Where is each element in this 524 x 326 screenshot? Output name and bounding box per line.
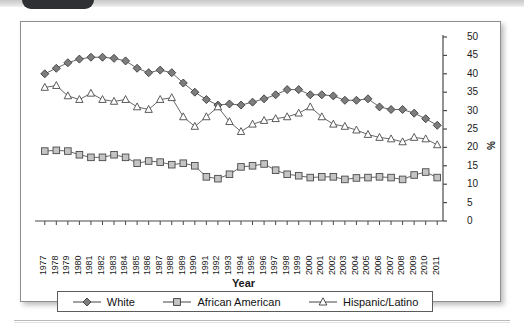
y-axis-tick-label: 15 (467, 161, 489, 171)
x-axis-tick-label: 1984 (119, 256, 129, 275)
x-axis-tick-label: 1978 (50, 256, 60, 275)
x-axis-tick-label: 2002 (327, 256, 337, 275)
x-axis-tick-label: 1998 (281, 256, 291, 275)
page-bottom-rule (14, 320, 510, 321)
x-axis-tick-label: 2006 (373, 256, 383, 275)
x-axis-tick-label: 1983 (108, 256, 118, 275)
x-axis-tick-label: 1997 (269, 256, 279, 275)
x-axis-tick-label: 2003 (338, 256, 348, 275)
x-axis-tick-label: 2009 (408, 256, 418, 275)
page-bottom-rule-shadow (14, 322, 510, 323)
legend-label: White (107, 296, 135, 308)
y-axis-tick-label: 5 (467, 198, 489, 208)
x-axis-tick-label: 2004 (350, 256, 360, 275)
x-axis-label: Year (21, 277, 466, 289)
x-axis-tick-label: 1993 (223, 256, 233, 275)
filled-diamond-icon (72, 295, 102, 309)
plot-area (33, 33, 453, 230)
x-axis-tick-label: 2001 (315, 256, 325, 275)
y-axis-tick-label: 40 (467, 69, 489, 79)
x-axis-ticks: 1977197819791980198119821983198419851986… (33, 233, 453, 275)
x-axis-tick-label: 2011 (431, 256, 441, 275)
x-axis-tick-label: 2007 (385, 256, 395, 275)
y-axis-tick-label: 0 (467, 216, 489, 226)
x-axis-tick-label: 1991 (200, 256, 210, 275)
y-axis-tick-label: 30 (467, 106, 489, 116)
x-axis-tick-label: 1994 (235, 256, 245, 275)
x-axis-tick-label: 1992 (211, 256, 221, 275)
legend-entry[interactable]: Hispanic/Latino (308, 295, 418, 309)
y-axis-tick-label: 10 (467, 179, 489, 189)
x-axis-tick-label: 1981 (84, 256, 94, 275)
y-axis-tick-label: 50 (467, 32, 489, 42)
x-axis-tick-label: 1996 (258, 256, 268, 275)
page-top-tab (22, 0, 94, 9)
x-axis-tick-label: 1977 (38, 256, 48, 275)
y-axis-tick-label: 45 (467, 50, 489, 60)
x-axis-tick-label: 1990 (188, 256, 198, 275)
x-axis-tick-label: 1986 (142, 256, 152, 275)
chart-figure: % 19771978197919801981198219831984198519… (20, 21, 501, 302)
legend-entry[interactable]: White (72, 295, 135, 309)
y-axis-tick-label: 35 (467, 87, 489, 97)
open-triangle-icon (308, 295, 338, 309)
x-axis-tick-label: 1980 (73, 256, 83, 275)
x-axis-tick-label: 1999 (292, 256, 302, 275)
legend-label: African American (197, 296, 280, 308)
legend-label: Hispanic/Latino (343, 296, 418, 308)
x-axis-tick-label: 2005 (361, 256, 371, 275)
x-axis-tick-label: 1995 (246, 256, 256, 275)
x-axis-tick-label: 1988 (165, 256, 175, 275)
y-axis-tick-label: 20 (467, 142, 489, 152)
plot-svg (33, 33, 453, 230)
x-axis-tick-label: 2010 (419, 256, 429, 275)
legend-entry[interactable]: African American (162, 295, 280, 309)
x-axis-tick-label: 1985 (131, 256, 141, 275)
x-axis-tick-label: 1982 (96, 256, 106, 275)
chart-legend: WhiteAfrican AmericanHispanic/Latino (57, 291, 433, 312)
x-axis-tick-label: 1989 (177, 256, 187, 275)
y-axis-tick-label: 25 (467, 124, 489, 134)
open-square-icon (162, 295, 192, 309)
page-background: % 19771978197919801981198219831984198519… (0, 0, 524, 326)
x-axis-tick-label: 2008 (396, 256, 406, 275)
x-axis-tick-label: 1987 (154, 256, 164, 275)
x-axis-tick-label: 2000 (304, 256, 314, 275)
x-axis-tick-label: 1979 (61, 256, 71, 275)
